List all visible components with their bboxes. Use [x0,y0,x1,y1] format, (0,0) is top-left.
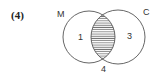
region-c-only: 3 [127,32,132,41]
region-outside: 4 [101,65,106,74]
set-c-label: C [143,8,150,17]
set-m-label: M [57,10,65,19]
region-m-only: 1 [78,33,83,42]
